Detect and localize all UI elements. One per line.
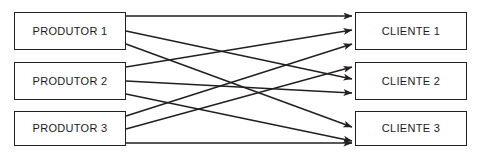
- node-label-c1: CLIENTE 1: [382, 26, 440, 37]
- node-label-p2: PRODUTOR 2: [33, 76, 108, 87]
- node-label-c3: CLIENTE 3: [382, 123, 440, 134]
- connection-arrow-p2-to-c3: [126, 94, 352, 141]
- node-box-p1[interactable]: PRODUTOR 1: [14, 12, 126, 50]
- node-box-p2[interactable]: PRODUTOR 2: [14, 62, 126, 100]
- node-box-c2[interactable]: CLIENTE 2: [355, 62, 467, 100]
- diagram-canvas: PRODUTOR 1PRODUTOR 2PRODUTOR 3CLIENTE 1C…: [0, 0, 479, 158]
- node-box-c3[interactable]: CLIENTE 3: [355, 111, 467, 146]
- edges-group: [126, 16, 352, 143]
- connection-arrow-p2-to-c2: [126, 81, 352, 93]
- connection-arrow-p2-to-c1: [126, 30, 352, 67]
- node-label-p3: PRODUTOR 3: [33, 123, 108, 134]
- node-box-c1[interactable]: CLIENTE 1: [355, 12, 467, 50]
- node-label-p1: PRODUTOR 1: [33, 26, 108, 37]
- node-box-p3[interactable]: PRODUTOR 3: [14, 111, 126, 146]
- connection-arrow-p3-to-c2: [126, 67, 352, 129]
- node-label-c2: CLIENTE 2: [382, 76, 440, 87]
- connection-arrow-p1-to-c3: [126, 44, 352, 127]
